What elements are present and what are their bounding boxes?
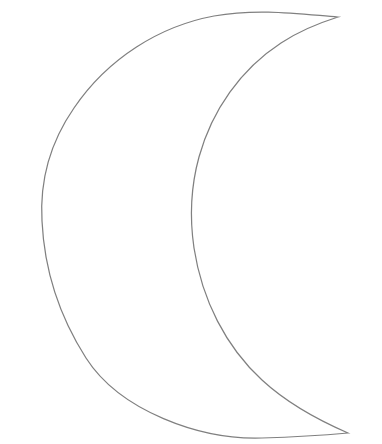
crescent-moon-illustration: [0, 0, 382, 444]
drawing-canvas: [0, 0, 382, 444]
